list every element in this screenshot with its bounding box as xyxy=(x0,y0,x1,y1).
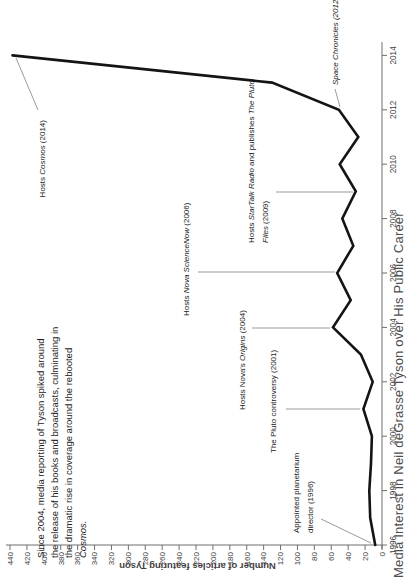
annotation-line: The Pluto controversy (2001) xyxy=(267,350,281,453)
commentary-line: the dramatic rise in coverage around the… xyxy=(62,327,76,558)
rotated-page: 0204060801001201401601802002202402602803… xyxy=(0,0,410,582)
leader-line-space-chronicles-2012 xyxy=(335,89,340,107)
chart-title: Media Interest in Neil deGrasse Tyson ov… xyxy=(391,212,406,578)
annotation-line: Hosts StarTalk Radio and publishes The P… xyxy=(245,80,259,243)
commentary-line: Since 2004, media reporting of Tyson spi… xyxy=(34,327,48,558)
y-axis-title: Number of articles featuring Tyson xyxy=(108,561,288,572)
annotation-line: Space Chronicles (2012) xyxy=(329,0,343,85)
annotation-planetarium-1996: Appointed planetariumdirector (1996) xyxy=(290,453,317,533)
value-tick-label: 20 xyxy=(361,551,370,560)
annotation-sciencenow-2006: Hosts Nova ScienceNow (2006) xyxy=(180,203,194,316)
year-tick-label: 2012 xyxy=(389,100,398,119)
annotation-line: Hosts Nova's Origins (2004) xyxy=(236,310,250,410)
value-tick-label: 0 xyxy=(378,551,387,556)
annotation-pluto-2001: The Pluto controversy (2001) xyxy=(267,350,281,453)
chart-sheet: 0204060801001201401601802002202402602803… xyxy=(0,0,410,582)
annotation-line: Files (2009) xyxy=(259,80,273,243)
annotation-line: Appointed planetarium xyxy=(290,453,304,533)
commentary-block: Since 2004, media reporting of Tyson spi… xyxy=(34,327,90,558)
annotation-line: Hosts Nova ScienceNow (2006) xyxy=(180,203,194,316)
annotation-space-chronicles-2012: Space Chronicles (2012) xyxy=(329,0,343,85)
annotation-line: director (1996) xyxy=(304,453,318,533)
value-tick-label: 420 xyxy=(23,551,32,565)
annotation-startalk-2009: Hosts StarTalk Radio and publishes The P… xyxy=(245,80,272,243)
commentary-line: Cosmos. xyxy=(76,327,90,558)
leader-line-cosmos-2014 xyxy=(16,58,38,110)
value-tick-label: 60 xyxy=(327,551,336,560)
year-tick-label: 2014 xyxy=(389,46,398,65)
commentary-line: the release of his books and broadcasts,… xyxy=(48,327,62,558)
leader-line-planetarium-1996 xyxy=(321,519,371,543)
year-tick-label: 2010 xyxy=(389,155,398,174)
value-tick-label: 40 xyxy=(344,551,353,560)
annotation-origins-2004: Hosts Nova's Origins (2004) xyxy=(236,310,250,410)
value-tick-label: 340 xyxy=(90,551,99,565)
value-tick-label: 440 xyxy=(6,551,15,565)
value-tick-label: 80 xyxy=(310,551,319,560)
annotation-cosmos-2014: Hosts Cosmos (2014) xyxy=(36,120,50,197)
value-tick-label: 100 xyxy=(293,551,302,565)
annotation-line: Hosts Cosmos (2014) xyxy=(36,120,50,197)
